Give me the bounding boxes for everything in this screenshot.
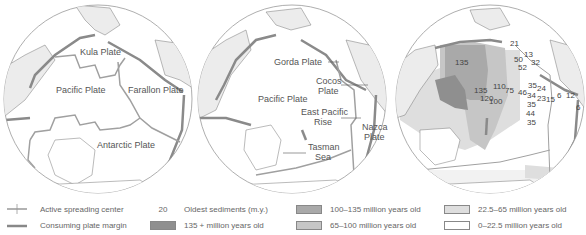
swatch-22-65 — [444, 205, 470, 214]
svg-text:32: 32 — [531, 58, 540, 67]
legend-item-age5: 0–22.5 million years old — [444, 219, 562, 231]
legend-sample-number: 20 — [150, 205, 176, 214]
label-antarctic-plate: Antarctic Plate — [97, 140, 155, 150]
svg-text:35: 35 — [527, 118, 536, 127]
legend-item-oldest: 20 Oldest sediments (m.y.) — [150, 203, 268, 215]
svg-text:100: 100 — [489, 97, 503, 106]
svg-text:6: 6 — [576, 103, 581, 112]
legend-label-age3: 65–100 million years old — [330, 221, 416, 230]
swatch-0-22 — [444, 221, 470, 230]
label-farallon-plate: Farallon Plate — [128, 85, 184, 95]
globe-maps: Kula Plate Pacific Plate Farallon Plate … — [0, 0, 586, 200]
svg-text:35: 35 — [527, 100, 536, 109]
legend-label-age1: 135 + million years old — [184, 221, 264, 230]
swatch-100-135 — [296, 205, 322, 214]
label-cocos-plate-line2: Plate — [318, 86, 339, 96]
legend-item-age4: 22.5–65 million years old — [444, 203, 567, 215]
globe-map-present-plates: Gorda Plate Cocos Plate Pacific Plate Ea… — [196, 0, 392, 200]
globe-map-ancient-plates: Kula Plate Pacific Plate Farallon Plate … — [0, 0, 196, 200]
label-nazca-plate-line1: Nazca — [362, 122, 388, 132]
legend-item-spreading: Active spreading center — [6, 203, 124, 215]
svg-text:6: 6 — [557, 91, 562, 100]
legend-item-age1: 135 + million years old — [150, 219, 264, 231]
svg-text:135: 135 — [455, 58, 469, 67]
legend: Active spreading center Consuming plate … — [0, 200, 586, 235]
label-tasman-sea-line1: Tasman — [308, 142, 340, 152]
label-east-pacific-rise-line1: East Pacific — [301, 107, 349, 117]
svg-text:34: 34 — [527, 91, 536, 100]
svg-text:15: 15 — [546, 95, 555, 104]
label-tasman-sea-line2: Sea — [315, 152, 331, 162]
legend-label-age4: 22.5–65 million years old — [478, 205, 567, 214]
legend-item-age2: 100–135 million years old — [296, 203, 421, 215]
svg-text:12: 12 — [566, 91, 575, 100]
label-east-pacific-rise-line2: Rise — [314, 117, 332, 127]
legend-label-spreading: Active spreading center — [40, 205, 124, 214]
label-nazca-plate-line2: Plate — [364, 132, 385, 142]
legend-label-oldest: Oldest sediments (m.y.) — [184, 205, 268, 214]
spreading-center-icon — [6, 204, 28, 214]
globe-map-sediment-ages: 21 13 50 52 32 135 135 110 120 100 75 46… — [390, 0, 586, 200]
label-pacific-plate: Pacific Plate — [56, 85, 106, 95]
label-gorda-plate: Gorda Plate — [274, 57, 322, 67]
svg-text:24: 24 — [537, 84, 546, 93]
svg-text:75: 75 — [505, 86, 514, 95]
legend-item-consuming: Consuming plate margin — [6, 219, 127, 231]
consuming-margin-icon — [6, 220, 28, 230]
legend-label-consuming: Consuming plate margin — [40, 221, 127, 230]
svg-text:21: 21 — [510, 39, 519, 48]
swatch-135-plus — [150, 221, 176, 230]
label-cocos-plate-line1: Cocos — [316, 76, 342, 86]
label-pacific-plate: Pacific Plate — [258, 94, 308, 104]
legend-label-age5: 0–22.5 million years old — [478, 221, 562, 230]
svg-text:52: 52 — [518, 63, 527, 72]
swatch-65-100 — [296, 221, 322, 230]
label-kula-plate: Kula Plate — [80, 47, 121, 57]
legend-item-age3: 65–100 million years old — [296, 219, 416, 231]
svg-text:44: 44 — [526, 109, 535, 118]
legend-label-age2: 100–135 million years old — [330, 205, 421, 214]
